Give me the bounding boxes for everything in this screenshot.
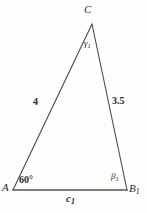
triangle-side-right	[92, 24, 127, 190]
angle-gamma-subscript: 1	[88, 42, 91, 49]
side-length-left: 4	[33, 97, 38, 107]
side-c-subscript: 1	[71, 197, 75, 206]
angle-beta-subscript: 1	[115, 175, 118, 182]
vertex-label-c: C	[84, 4, 91, 15]
side-length-right: 3.5	[112, 96, 125, 106]
vertex-b-letter: B	[129, 182, 136, 194]
vertex-label-a: A	[2, 182, 9, 193]
angle-label-60-degrees: 60°	[19, 175, 33, 185]
angle-label-gamma1: γ1	[84, 39, 91, 49]
triangle-side-left	[13, 24, 92, 190]
angle-label-beta1: β1	[111, 172, 119, 182]
vertex-label-b1: B1	[129, 183, 140, 196]
triangle-figure: C γ1 4 3.5 A 60° β1 B1 c1	[0, 0, 147, 213]
vertex-b-subscript: 1	[136, 187, 140, 196]
side-length-base: c1	[66, 193, 75, 206]
